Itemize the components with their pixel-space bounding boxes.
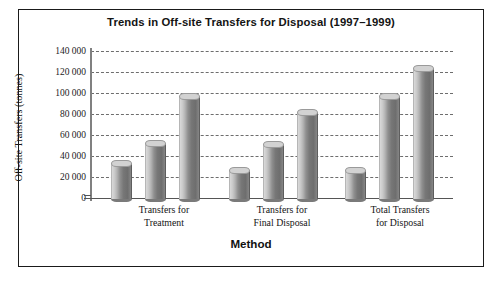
x-category-label-final-disposal: Transfers for Final Disposal bbox=[222, 203, 342, 229]
bar bbox=[179, 93, 200, 199]
figure-caption bbox=[26, 279, 326, 286]
bar-body bbox=[413, 68, 434, 199]
bar-top-cap bbox=[263, 141, 284, 148]
y-tick-label: 60 000 bbox=[28, 130, 86, 140]
category-line-1: Transfers for bbox=[222, 203, 342, 216]
y-tick-label: 20 000 bbox=[28, 172, 86, 182]
bar bbox=[229, 167, 250, 199]
y-tick-label: 140 000 bbox=[28, 46, 86, 56]
bar-top-cap bbox=[229, 167, 250, 174]
category-line-1: Total Transfers bbox=[340, 203, 460, 216]
chart-title: Trends in Off-site Transfers for Disposa… bbox=[18, 16, 484, 28]
x-category-label-treatment: Transfers for Treatment bbox=[104, 203, 224, 229]
bar bbox=[297, 109, 318, 199]
bar bbox=[413, 65, 434, 199]
bar bbox=[145, 140, 166, 199]
bar-body bbox=[145, 143, 166, 199]
bar-top-cap bbox=[111, 160, 132, 167]
figure-container: Trends in Off-site Transfers for Disposa… bbox=[0, 0, 503, 286]
bar-top-cap bbox=[145, 140, 166, 147]
x-axis-title: Method bbox=[18, 237, 484, 250]
bar-body bbox=[297, 112, 318, 199]
y-tick-label: 80 000 bbox=[28, 109, 86, 119]
bar-body bbox=[179, 96, 200, 199]
bar-group-container bbox=[91, 51, 453, 199]
bar-top-cap bbox=[297, 109, 318, 116]
bar-top-cap bbox=[413, 65, 434, 72]
y-tick-label: 120 000 bbox=[28, 67, 86, 77]
bar-body bbox=[379, 96, 400, 199]
y-tick-label: 0 bbox=[28, 193, 86, 203]
x-category-label-total: Total Transfers for Disposal bbox=[340, 203, 460, 229]
y-tick-label: 100 000 bbox=[28, 88, 86, 98]
plot-area bbox=[91, 51, 453, 199]
bar bbox=[263, 141, 284, 199]
x-axis-origin-tick bbox=[84, 195, 91, 196]
category-line-2: Treatment bbox=[104, 216, 224, 229]
bar-body bbox=[263, 144, 284, 199]
bar-top-cap bbox=[379, 93, 400, 100]
bar bbox=[379, 93, 400, 199]
bar bbox=[111, 160, 132, 199]
bar bbox=[345, 167, 366, 199]
bar-top-cap bbox=[179, 93, 200, 100]
y-tick-label: 40 000 bbox=[28, 151, 86, 161]
bar-top-cap bbox=[345, 167, 366, 174]
bar-body bbox=[345, 170, 366, 199]
category-line-2: Final Disposal bbox=[222, 216, 342, 229]
bar-body bbox=[229, 170, 250, 199]
bar-body bbox=[111, 163, 132, 199]
category-line-1: Transfers for bbox=[104, 203, 224, 216]
y-axis-line bbox=[90, 48, 92, 201]
category-line-2: for Disposal bbox=[340, 216, 460, 229]
